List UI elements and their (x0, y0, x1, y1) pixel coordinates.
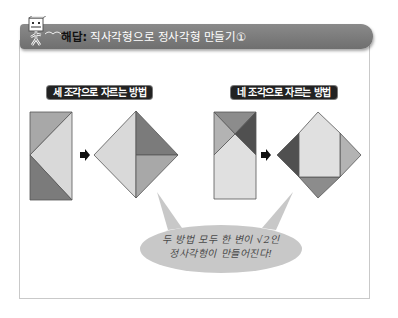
square-four-pieces (277, 112, 361, 198)
bubble-text: 두 방법 모두 한 변이 √2인 정사각형이 만들어진다! (140, 233, 302, 261)
right-arrow-icon (261, 149, 271, 161)
right-arrow-icon (80, 149, 90, 161)
rect-four-pieces (214, 112, 256, 199)
rect-three-pieces (30, 112, 72, 200)
square-three-pieces (94, 111, 178, 198)
bubble-line-2: 정사각형이 만들어진다! (140, 247, 302, 261)
dissection-diagram (0, 0, 398, 318)
bubble-line-1: 두 방법 모두 한 변이 √2인 (140, 233, 302, 247)
